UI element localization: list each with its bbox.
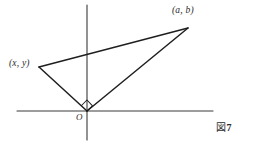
figure-caption-number: 7	[227, 122, 233, 133]
vertex-label-xy: (x, y)	[9, 58, 30, 68]
edge-xy-to-ab	[39, 28, 188, 67]
edge-xy-to-origin	[39, 67, 87, 111]
figure-page: (a, b) (x, y) O 図7	[0, 0, 254, 147]
vertex-label-ab: (a, b)	[172, 5, 194, 15]
figure-caption: 図7	[216, 119, 232, 134]
origin-label: O	[76, 112, 83, 122]
figure-caption-word: 図	[216, 122, 227, 133]
